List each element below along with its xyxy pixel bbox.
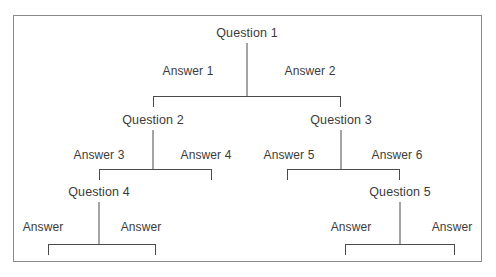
stem-q5 (400, 202, 401, 244)
diagram-canvas: Question 1Question 2Question 3Question 4… (0, 0, 496, 277)
edge-label-a8: Answer (121, 220, 162, 234)
edge-label-a3: Answer 3 (74, 148, 125, 162)
bracket-q3 (287, 169, 400, 180)
edge-label-a1: Answer 1 (163, 64, 214, 78)
edge-label-a6: Answer 6 (372, 148, 423, 162)
stem-q2 (153, 130, 154, 169)
node-q3: Question 3 (310, 113, 371, 127)
stem-q3 (341, 130, 342, 169)
edge-label-a5: Answer 5 (264, 148, 315, 162)
diagram-frame (13, 15, 482, 262)
bracket-q2 (99, 169, 212, 180)
node-q4: Question 4 (68, 185, 129, 199)
edge-label-a7: Answer (23, 220, 64, 234)
bracket-q5 (345, 244, 455, 255)
bracket-q4 (48, 244, 156, 255)
bracket-q1 (153, 96, 341, 107)
node-q2: Question 2 (122, 113, 183, 127)
edge-label-a9: Answer (331, 220, 372, 234)
node-q5: Question 5 (369, 185, 430, 199)
edge-label-a10: Answer (432, 220, 473, 234)
stem-q4 (99, 202, 100, 244)
clipped-caption-fragment (0, 0, 496, 3)
stem-q1 (247, 43, 248, 96)
edge-label-a4: Answer 4 (181, 148, 232, 162)
node-q1: Question 1 (216, 26, 277, 40)
edge-label-a2: Answer 2 (285, 64, 336, 78)
